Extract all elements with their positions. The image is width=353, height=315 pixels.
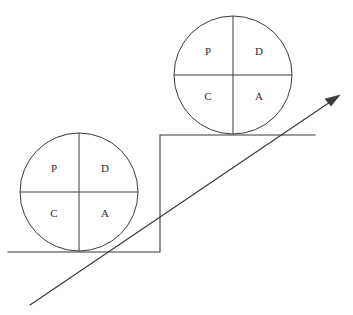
pdca-diagram-canvas: P D C A P D C A [0, 0, 353, 315]
lower-wheel-label-check: C [50, 207, 57, 219]
upper-wheel-label-do: D [255, 45, 263, 57]
upper-wheel-label-plan: P [205, 45, 211, 57]
upper-wheel-label-act: A [255, 90, 263, 102]
lower-pdca-wheel: P D C A [20, 133, 138, 251]
lower-wheel-label-plan: P [51, 162, 57, 174]
pdca-diagram-svg: P D C A P D C A [0, 0, 353, 315]
upper-pdca-wheel: P D C A [174, 16, 292, 134]
upper-wheel-label-check: C [204, 90, 211, 102]
lower-wheel-label-do: D [101, 162, 109, 174]
lower-wheel-label-act: A [101, 207, 109, 219]
